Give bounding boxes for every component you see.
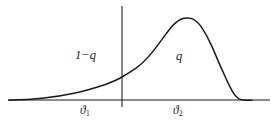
theta-2-symbol: ϑ: [173, 104, 179, 116]
figure-canvas: [0, 0, 276, 124]
theta-2-subscript: 2: [179, 109, 183, 118]
axis-label-theta-2: ϑ2: [173, 105, 182, 117]
region-label-one-minus-q: 1−q: [75, 49, 96, 62]
axes-group: [8, 6, 270, 107]
axis-label-theta-1: ϑ1: [80, 105, 89, 117]
theta-1-symbol: ϑ: [80, 104, 86, 116]
theta-1-subscript: 1: [86, 109, 90, 118]
density-curve-group: [9, 18, 252, 100]
density-curve-path: [9, 18, 252, 100]
region-label-q: q: [176, 50, 182, 63]
density-curve-figure: 1−q q ϑ1 ϑ2: [0, 0, 276, 124]
